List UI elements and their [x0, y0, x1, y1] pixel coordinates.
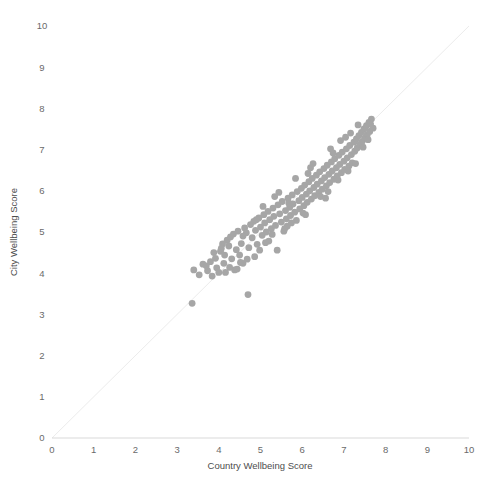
scatter-point [235, 228, 242, 235]
scatter-point [203, 262, 210, 269]
scatter-point [238, 240, 245, 247]
y-tick-label: 3 [39, 309, 44, 320]
scatter-point [352, 160, 359, 167]
scatter-point [279, 198, 286, 205]
x-tick-label: 5 [258, 444, 263, 455]
x-tick-label: 4 [216, 444, 221, 455]
scatter-point [337, 137, 344, 144]
scatter-point [225, 243, 232, 250]
scatter-point [330, 149, 337, 156]
x-tick-label: 0 [49, 444, 54, 455]
plot-area: 012345678910 012345678910 [37, 20, 475, 455]
scatter-point [345, 168, 352, 175]
x-tick-label: 10 [464, 444, 475, 455]
scatter-point [189, 300, 196, 307]
scatter-point [276, 210, 283, 217]
y-tick-label: 1 [39, 391, 44, 402]
scatter-point [245, 291, 252, 298]
scatter-point [212, 255, 219, 262]
scatter-point [253, 216, 260, 223]
x-tick-label: 3 [174, 444, 179, 455]
scatter-point [347, 130, 354, 137]
scatter-point [335, 177, 342, 184]
scatter-point [234, 266, 241, 273]
scatter-point [272, 222, 279, 229]
scatter-point [256, 247, 263, 254]
y-tick-label: 8 [39, 103, 44, 114]
scatter-point [220, 260, 227, 267]
scatter-point [260, 203, 267, 210]
y-tick-label: 2 [39, 350, 44, 361]
scatter-point [355, 121, 362, 128]
scatter-point [281, 225, 288, 232]
scatter-point [285, 200, 292, 207]
x-tick-label: 2 [133, 444, 138, 455]
scatter-point [274, 247, 281, 254]
scatter-chart: 012345678910 012345678910 Country Wellbe… [0, 0, 492, 494]
chart-canvas: 012345678910 012345678910 Country Wellbe… [0, 0, 492, 494]
scatter-point [269, 231, 276, 238]
scatter-point [262, 239, 269, 246]
y-tick-label: 4 [39, 268, 44, 279]
y-tick-label: 7 [39, 144, 44, 155]
x-axis-title: Country Wellbeing Score [208, 460, 313, 471]
scatter-point [196, 271, 203, 278]
scatter-point [190, 267, 197, 274]
x-tick-label: 8 [383, 444, 388, 455]
y-tick-label: 0 [39, 432, 44, 443]
x-axis-tick-labels: 012345678910 [49, 444, 474, 455]
scatter-point [271, 193, 278, 200]
x-tick-label: 9 [425, 444, 430, 455]
scatter-point [325, 188, 332, 195]
y-axis-tick-labels: 012345678910 [37, 20, 48, 443]
scatter-point [221, 252, 228, 259]
y-tick-label: 5 [39, 226, 44, 237]
x-tick-label: 6 [300, 444, 305, 455]
scatter-point [209, 273, 216, 280]
y-tick-label: 10 [37, 20, 48, 31]
scatter-point [292, 175, 299, 182]
scatter-point [218, 245, 225, 252]
scatter-point [365, 136, 372, 143]
scatter-point [237, 259, 244, 266]
scatter-point [228, 255, 235, 262]
x-tick-label: 1 [91, 444, 96, 455]
y-axis-title: City Wellbeing Score [8, 188, 19, 276]
scatter-point [251, 253, 258, 260]
scatter-point [367, 121, 374, 128]
scatter-point [270, 213, 277, 220]
scatter-point [249, 234, 256, 241]
scatter-point [245, 244, 252, 251]
scatter-point [226, 264, 233, 271]
scatter-point [244, 256, 251, 263]
scatter-point [307, 164, 314, 171]
y-tick-label: 9 [39, 62, 44, 73]
scatter-point [288, 220, 295, 227]
y-tick-label: 6 [39, 185, 44, 196]
scatter-point [210, 249, 217, 256]
scatter-point [302, 211, 309, 218]
x-tick-label: 7 [341, 444, 346, 455]
scatter-point [236, 252, 243, 259]
scatter-point [215, 269, 222, 276]
scatter-point [240, 233, 247, 240]
scatter-point [360, 144, 367, 151]
scatter-point [322, 195, 329, 202]
